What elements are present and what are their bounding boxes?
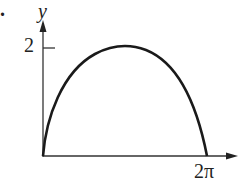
item-marker: . (0, 0, 5, 21)
x-axis-arrow-icon (226, 153, 238, 160)
y-tick-label: 2 (24, 34, 34, 57)
x-tick-label: 2π (194, 160, 214, 183)
curve (43, 46, 207, 156)
y-axis-label: y (38, 0, 47, 23)
x-axis (43, 153, 238, 160)
